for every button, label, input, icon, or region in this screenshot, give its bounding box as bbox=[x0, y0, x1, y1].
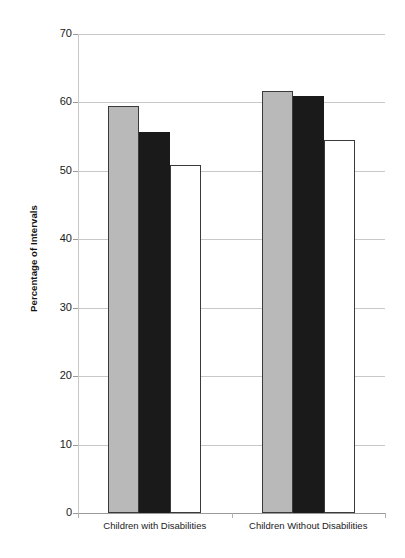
x-tick-origin bbox=[78, 513, 79, 518]
x-category-label-1: Children with Disabilities bbox=[78, 520, 232, 531]
bar-g1-s1 bbox=[108, 106, 139, 513]
y-tick-label-40: 40 bbox=[32, 233, 72, 244]
y-tick-label-70: 70 bbox=[32, 28, 72, 39]
y-tick-label-0: 0 bbox=[32, 507, 72, 518]
bar-g1-s2 bbox=[139, 132, 170, 513]
bars-layer bbox=[78, 34, 385, 513]
y-tick-label-50: 50 bbox=[32, 165, 72, 176]
y-axis-tick-labels: 010203040506070 bbox=[28, 34, 72, 513]
y-tick-label-20: 20 bbox=[32, 370, 72, 381]
x-tick-2 bbox=[385, 513, 386, 518]
x-category-label-2: Children Without Disabilities bbox=[232, 520, 386, 531]
y-tick-label-30: 30 bbox=[32, 302, 72, 313]
bar-g2-s2 bbox=[293, 96, 324, 513]
bar-g1-s3 bbox=[170, 165, 201, 513]
y-tick-label-10: 10 bbox=[32, 439, 72, 450]
bar-chart: Percentage of Intervals 010203040506070 … bbox=[0, 0, 405, 558]
y-tick-label-60: 60 bbox=[32, 96, 72, 107]
bar-g2-s3 bbox=[324, 140, 355, 513]
bar-g2-s1 bbox=[262, 91, 293, 513]
plot-area bbox=[78, 34, 385, 513]
x-tick-1 bbox=[232, 513, 233, 518]
